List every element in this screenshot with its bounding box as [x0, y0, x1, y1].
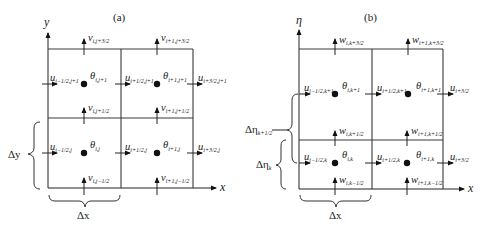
- svg-text:vi+1,j+1/2: vi+1,j+1/2: [161, 102, 189, 114]
- dx-label: Δx: [77, 209, 90, 221]
- panel-a-title: (a): [113, 11, 126, 24]
- svg-text:wi+1,k−1/2: wi+1,k−1/2: [411, 174, 443, 186]
- svg-text:θi+1,j+1: θi+1,j+1: [163, 70, 187, 83]
- deta-upper-label: Δηk+1/2: [245, 123, 272, 136]
- svg-text:ui−1/2,j+1: ui−1/2,j+1: [50, 72, 79, 84]
- svg-text:ui−1/2,k+1: ui−1/2,k+1: [304, 82, 334, 94]
- dx-brace: [49, 195, 120, 207]
- v-labels: vi,j+3/2 vi+1,j+3/2 vi,j+1/2 vi+1,j+1/2 …: [88, 32, 189, 184]
- dy-label: Δy: [8, 148, 21, 160]
- theta-point: [81, 81, 87, 87]
- svg-text:ui+1/2,j: ui+1/2,j: [125, 141, 147, 153]
- svg-text:ui−1/2,j: ui−1/2,j: [50, 141, 72, 153]
- y-axis-label: y: [43, 15, 50, 29]
- grid-lines: [299, 49, 443, 189]
- grid-lines: [48, 49, 193, 188]
- panel-a: (a) y x θi,j+1 θi+1,j+1 θi,j θi+1,j: [8, 11, 227, 221]
- svg-text:ui+3/2: ui+3/2: [450, 82, 469, 94]
- deta-lower-brace: [276, 140, 286, 189]
- deta-upper-brace: [287, 94, 298, 163]
- svg-text:vi,j−1/2: vi,j−1/2: [88, 172, 109, 184]
- w-labels: wi,k+3/2 wi+1,k+3/2 wi,k+1/2 wi+1,k+1/2 …: [339, 34, 444, 186]
- svg-text:wi+1,k+3/2: wi+1,k+3/2: [412, 34, 444, 46]
- svg-text:θi,k+1: θi,k+1: [342, 80, 360, 93]
- svg-text:ui+3/2: ui+3/2: [450, 151, 469, 163]
- theta-point: [81, 150, 87, 156]
- svg-text:ui−1/2,k: ui−1/2,k: [304, 151, 327, 163]
- svg-text:wi,k−1/2: wi,k−1/2: [339, 174, 364, 186]
- svg-text:ui+1/2,k: ui+1/2,k: [377, 151, 400, 163]
- theta-point: [154, 150, 160, 156]
- staggered-grid-diagram: (a) y x θi,j+1 θi+1,j+1 θi,j θi+1,j: [0, 0, 480, 226]
- theta-point: [154, 81, 160, 87]
- deta-lower-label: Δηk: [256, 158, 272, 171]
- svg-text:θi+1,j: θi+1,j: [163, 139, 180, 152]
- dx-brace: [300, 195, 371, 207]
- svg-text:ui+3/2,j: ui+3/2,j: [198, 141, 220, 153]
- svg-text:θi,j+1: θi,j+1: [90, 70, 107, 83]
- svg-text:ui+3/2,j+1: ui+3/2,j+1: [198, 72, 227, 84]
- svg-text:θi,k: θi,k: [342, 149, 353, 162]
- svg-text:θi+1,k: θi+1,k: [416, 149, 434, 162]
- svg-text:θi+1,k+1: θi+1,k+1: [416, 80, 441, 93]
- x-axis-label: x: [219, 180, 226, 194]
- svg-text:wi,k+3/2: wi,k+3/2: [339, 34, 364, 46]
- svg-text:vi+1,j−1/2: vi+1,j−1/2: [161, 172, 189, 184]
- panel-b-title: (b): [364, 11, 377, 24]
- svg-text:vi,j+1/2: vi,j+1/2: [88, 102, 109, 114]
- svg-text:vi+1,j+3/2: vi+1,j+3/2: [161, 32, 189, 44]
- x-axis-label: x: [467, 181, 474, 195]
- eta-axis-label: η: [296, 13, 302, 27]
- u-velocity-arrows: [299, 94, 453, 163]
- svg-text:wi,k+1/2: wi,k+1/2: [339, 125, 364, 137]
- svg-text:ui+1/2,j+1: ui+1/2,j+1: [125, 72, 154, 84]
- dx-label: Δx: [329, 209, 342, 221]
- svg-text:ui+1/2,k+1: ui+1/2,k+1: [377, 82, 407, 94]
- svg-text:vi,j+3/2: vi,j+3/2: [88, 32, 109, 44]
- svg-text:wi+1,k+1/2: wi+1,k+1/2: [411, 125, 443, 137]
- svg-text:θi,j: θi,j: [90, 139, 100, 152]
- dy-brace: [28, 122, 40, 189]
- panel-b: (b) η x θi,k+1 θi+1,k+1 θi,k θi+1,k: [245, 11, 474, 221]
